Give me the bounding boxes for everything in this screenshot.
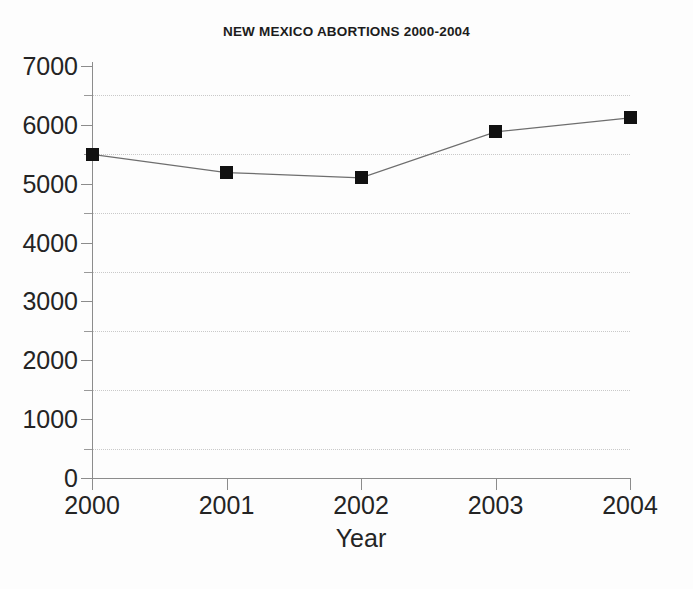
data-point-marker [220, 166, 233, 179]
line-chart: NEW MEXICO ABORTIONS 2000-2004 010002000… [0, 0, 693, 589]
data-point-marker [355, 171, 368, 184]
series-line [0, 0, 693, 589]
data-point-marker [489, 125, 502, 138]
data-point-marker [86, 148, 99, 161]
data-point-marker [624, 111, 637, 124]
